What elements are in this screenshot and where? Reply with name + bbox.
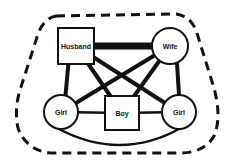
node-husband: Husband bbox=[58, 28, 94, 64]
node-girl-right: Girl bbox=[162, 95, 196, 129]
node-wife: Wife bbox=[152, 28, 188, 64]
family-diagram: HusbandWifeGirlBoyGirl bbox=[0, 0, 231, 167]
node-label: Girl bbox=[55, 109, 67, 116]
node-label: Girl bbox=[173, 109, 185, 116]
family-boundary bbox=[16, 14, 218, 153]
node-label: Boy bbox=[115, 110, 128, 118]
node-label: Husband bbox=[61, 43, 91, 50]
node-label: Wife bbox=[163, 43, 178, 50]
node-boy: Boy bbox=[105, 96, 139, 130]
node-girl-left: Girl bbox=[44, 95, 78, 129]
